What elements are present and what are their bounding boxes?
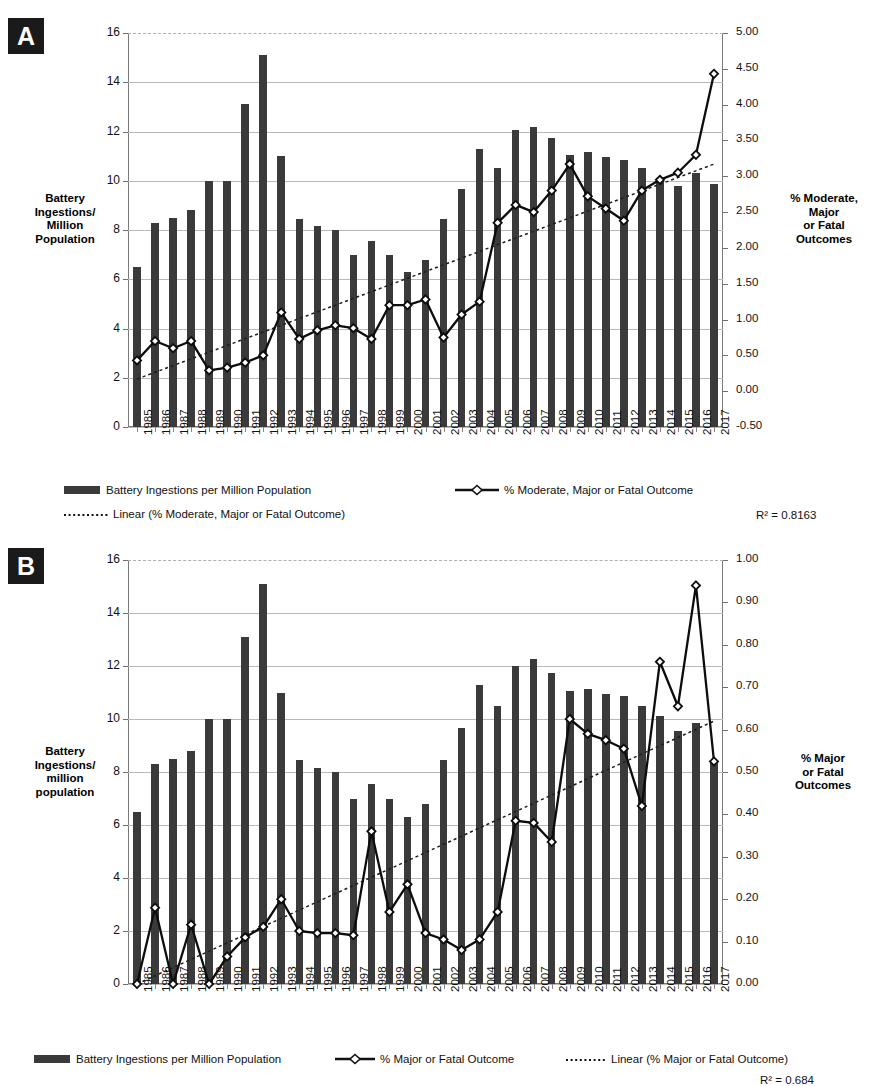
x-axis-tick-mark [227,984,228,989]
legend-dotted-line-icon [566,1053,606,1065]
x-axis-tick-mark [407,984,408,989]
axis-title-line: Ingestions/ [22,206,108,220]
x-axis-tick-mark [299,984,300,989]
y-axis-tick-label: 8 [84,764,120,778]
data-point-marker [512,817,520,825]
x-axis-tick-mark [516,427,517,432]
legend-line-label: % Moderate, Major or Fatal Outcome [504,484,693,496]
y2-axis-tick-label: 4.00 [736,97,780,109]
x-axis-tick-mark [281,984,282,989]
y2-axis-tick-label: 2.50 [736,204,780,216]
x-axis-tick-mark [209,427,210,432]
y2-axis-tick-mark [723,730,728,731]
x-axis-tick-mark [299,427,300,432]
series-overlay [128,560,723,984]
panel-a-legend-trend: Linear (% Moderate, Major or Fatal Outco… [64,507,345,520]
y-axis-tick-label: 4 [84,870,120,884]
panel-a-left-axis-title: BatteryIngestions/MillionPopulation [22,192,108,246]
y-axis-tick-label: 2 [84,923,120,937]
data-point-marker [133,980,141,988]
legend-line-label: % Major or Fatal Outcome [380,1053,514,1065]
y-axis-tick-label: 12 [84,124,120,138]
panel-a-plot-area: 0246810121416-0.500.000.501.001.502.002.… [128,33,723,427]
axis-title-line: Battery [22,192,108,206]
x-axis-tick-mark [281,427,282,432]
x-axis-tick-mark [389,984,390,989]
y2-axis-tick-mark [723,33,728,34]
data-point-marker [331,321,339,329]
x-axis-tick-mark [245,984,246,989]
panel-b: B BatteryIngestions/millionpopulation % … [0,540,876,1079]
y2-axis-tick-label: 0.50 [736,764,780,776]
y2-axis-tick-mark [723,176,728,177]
x-axis-tick-mark [534,427,535,432]
y2-axis-tick-mark [723,248,728,249]
data-point-marker [710,70,718,78]
x-axis-tick-mark [516,984,517,989]
x-axis-tick-mark [155,427,156,432]
y2-axis-tick-label: 0.00 [736,383,780,395]
x-axis-tick-mark [606,427,607,432]
axis-title-line: % Major [778,752,868,766]
axis-title-line: Outcomes [778,233,870,247]
x-axis-tick-mark [678,427,679,432]
x-axis-tick-mark [462,984,463,989]
y2-axis-tick-label: 0.80 [736,637,780,649]
y-axis-tick-mark [123,427,128,428]
axis-title-line: or Fatal [778,219,870,233]
data-point-marker [710,757,718,765]
axis-title-line: or Fatal [778,766,868,780]
x-axis-tick-mark [552,427,553,432]
x-axis-tick-mark [606,984,607,989]
data-point-marker [331,929,339,937]
x-axis-tick-mark [660,427,661,432]
panel-b-legend-trend: Linear (% Major or Fatal Outcome) [566,1052,788,1065]
data-point-marker [602,736,610,744]
y-axis-tick-label: 4 [84,321,120,335]
axis-title-line: % Moderate, [778,192,870,206]
axis-title-line: population [22,786,108,800]
y2-axis-tick-label: 0.00 [736,976,780,988]
panel-a-tag: A [8,18,44,54]
y2-axis-tick-mark [723,284,728,285]
data-point-marker [349,931,357,939]
y-axis-tick-label: 16 [84,552,120,566]
x-axis-tick-mark [642,427,643,432]
y2-axis-tick-label: -0.50 [736,419,780,431]
y-axis-tick-label: 6 [84,271,120,285]
x-axis-tick-mark [263,984,264,989]
x-axis-tick-mark [317,984,318,989]
y2-axis-tick-label: 0.20 [736,891,780,903]
panel-a-legend-bars: Battery Ingestions per Million Populatio… [64,483,311,496]
y2-axis-tick-label: 3.00 [736,168,780,180]
data-point-marker [421,929,429,937]
y2-axis-tick-label: 0.50 [736,347,780,359]
x-axis-tick-mark [444,427,445,432]
panel-b-right-axis-title: % Majoror FatalOutcomes [778,752,868,793]
data-point-marker [259,351,267,359]
y-axis-tick-label: 10 [84,173,120,187]
x-axis-tick-mark [642,984,643,989]
y2-axis-tick-label: 1.00 [736,312,780,324]
y2-axis-tick-mark [723,140,728,141]
x-axis-tick-mark [696,984,697,989]
legend-line-marker-icon [335,1053,375,1065]
axis-title-line: Major [778,206,870,220]
y-axis-tick-label: 12 [84,658,120,672]
x-axis-tick-mark [245,427,246,432]
y2-axis-tick-mark [723,69,728,70]
panel-a: A BatteryIngestions/MillionPopulation % … [0,0,876,540]
data-point-marker [692,581,700,589]
data-point-marker [656,658,664,666]
data-point-marker [674,702,682,710]
x-axis-tick-mark [371,984,372,989]
x-axis-tick-mark [714,984,715,989]
panel-b-r2-label: R² = 0.684 [760,1074,814,1086]
series-overlay [128,33,723,427]
y-axis-tick-label: 10 [84,711,120,725]
y2-axis-tick-label: 0.10 [736,934,780,946]
data-point-marker [151,904,159,912]
y2-axis-tick-mark [723,645,728,646]
axis-title-line: Battery [22,745,108,759]
